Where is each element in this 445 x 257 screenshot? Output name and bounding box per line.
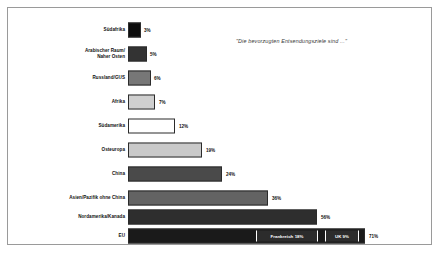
bar-label: Arabischer Raum/ Naher Osten — [15, 48, 125, 59]
bar-value-label: 24% — [226, 172, 235, 177]
bar-label: Südamerika — [15, 123, 125, 129]
bar-subsegment-label: Frankreich 18% — [270, 234, 303, 239]
bar-segment[interactable] — [128, 143, 202, 158]
chart-frame: "Die bevorzugten Entsendungsziele sind .… — [7, 7, 432, 245]
bar-label: China — [15, 171, 125, 177]
bar-value-label: 36% — [272, 196, 281, 201]
bar-value-label: 19% — [206, 148, 215, 153]
bar-label: Nordamerika/Kanada — [15, 214, 125, 220]
bar-value-label: 56% — [321, 215, 330, 220]
bar-label: Afrika — [15, 99, 125, 105]
bar-value-label: 3% — [144, 28, 151, 33]
bar-value-label: 7% — [159, 100, 166, 105]
bar-value-label: 12% — [179, 124, 188, 129]
bar-segment[interactable] — [128, 47, 147, 62]
bar-label: Osteuropa — [15, 147, 125, 153]
bar-segment[interactable]: Frankreich 18% UK 9% — [128, 229, 365, 244]
bar-label: EU — [15, 233, 125, 239]
chart-plot-area: Südafrika 3% Arabischer Raum/ Naher Oste… — [8, 8, 431, 244]
bar-segment[interactable] — [128, 95, 155, 110]
bar-segment[interactable] — [128, 119, 175, 134]
bar-segment[interactable] — [128, 71, 151, 86]
bar-label: Russland/GUS — [15, 75, 125, 81]
bar-segment[interactable] — [128, 23, 141, 38]
bar-label: Südafrika — [15, 27, 125, 33]
bar-segment[interactable] — [128, 210, 317, 225]
bar-segment[interactable] — [128, 167, 222, 182]
bar-value-label: 6% — [154, 76, 161, 81]
bar-value-label: 71% — [369, 234, 378, 239]
bar-label: Asien/Pazifik ohne China — [15, 195, 125, 201]
bar-subsegment-frankreich[interactable]: Frankreich 18% — [256, 231, 318, 242]
bar-segment[interactable] — [128, 191, 268, 206]
bar-value-label: 5% — [150, 52, 157, 57]
bar-subsegment-uk[interactable]: UK 9% — [325, 231, 359, 242]
bar-subsegment-label: UK 9% — [335, 234, 349, 239]
